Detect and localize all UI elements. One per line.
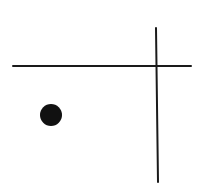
diagram-svg: [0, 0, 202, 190]
filled-dot: [40, 104, 62, 126]
vertical-line: [156, 28, 158, 182]
diagram-canvas: [0, 0, 202, 190]
